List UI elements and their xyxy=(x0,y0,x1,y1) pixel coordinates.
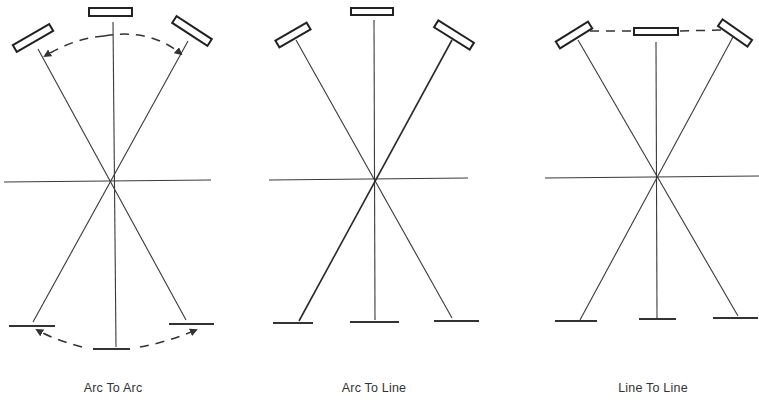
top-left-mirror xyxy=(275,23,310,48)
top-right-mirror xyxy=(434,20,474,49)
panel-arc-to-arc xyxy=(4,8,214,349)
caption-arc-to-arc: Arc To Arc xyxy=(13,381,213,395)
center-ray xyxy=(113,22,116,347)
panel-arc-to-line xyxy=(269,8,479,323)
caption-line-to-line: Line To Line xyxy=(553,381,753,395)
horizontal-axis xyxy=(545,176,759,178)
horizontal-axis xyxy=(269,178,468,180)
top-center-mirror xyxy=(89,8,132,16)
right-to-left-ray xyxy=(299,40,452,321)
center-ray xyxy=(374,20,375,320)
top-dashed-line-right xyxy=(680,30,722,31)
bottom-arc-arrow-left xyxy=(37,330,82,347)
top-center-mirror xyxy=(634,28,678,35)
top-left-mirror xyxy=(13,24,53,52)
top-right-mirror xyxy=(718,19,752,46)
caption-arc-to-line: Arc To Line xyxy=(274,381,474,395)
horizontal-axis xyxy=(4,180,211,182)
top-arc-arrow-right xyxy=(104,34,181,54)
bottom-arc-arrow-right xyxy=(140,330,196,347)
left-to-right-ray xyxy=(38,49,186,320)
diagram-canvas xyxy=(0,0,759,417)
top-arc-arrow-left xyxy=(45,36,104,56)
top-left-mirror xyxy=(556,22,592,49)
top-right-mirror xyxy=(172,16,212,46)
panel-line-to-line xyxy=(545,19,759,321)
top-center-mirror xyxy=(351,8,393,15)
